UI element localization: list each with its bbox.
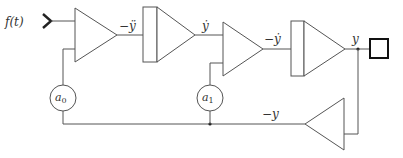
signal-label-neg-y: −y <box>262 107 279 121</box>
inverter <box>305 98 344 150</box>
wire-a0-to-summer1 <box>63 49 75 85</box>
output-box <box>370 39 388 58</box>
signal-label-ydot: ẏ <box>201 19 209 33</box>
input-arrow-icon <box>43 14 51 28</box>
signal-label-neg-yddot: −ÿ <box>119 19 136 33</box>
signal-label-y: y <box>351 32 359 46</box>
integrator-2 <box>304 21 345 76</box>
analog-computer-diagram: f(t) −ÿ ẏ −ẏ y −y a0 a1 <box>0 0 403 158</box>
summer-2 <box>223 22 263 76</box>
wire-feedback-down <box>344 49 358 134</box>
integrator-2-capacitor <box>291 21 304 76</box>
summer-1 <box>75 8 117 62</box>
input-label: f(t) <box>4 15 24 29</box>
wire-a1-to-summer2 <box>210 63 223 85</box>
integrator-1-capacitor <box>143 7 157 62</box>
signal-label-neg-ydot: −ẏ <box>264 32 281 46</box>
integrator-1 <box>157 7 195 62</box>
